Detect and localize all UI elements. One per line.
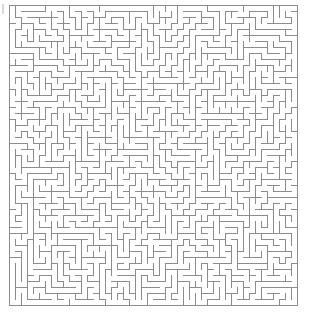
left-edge-mark bbox=[2, 4, 4, 14]
maze-canvas bbox=[0, 0, 309, 317]
maze-figure: Maze A square rectangular perfect maze r… bbox=[0, 0, 309, 317]
